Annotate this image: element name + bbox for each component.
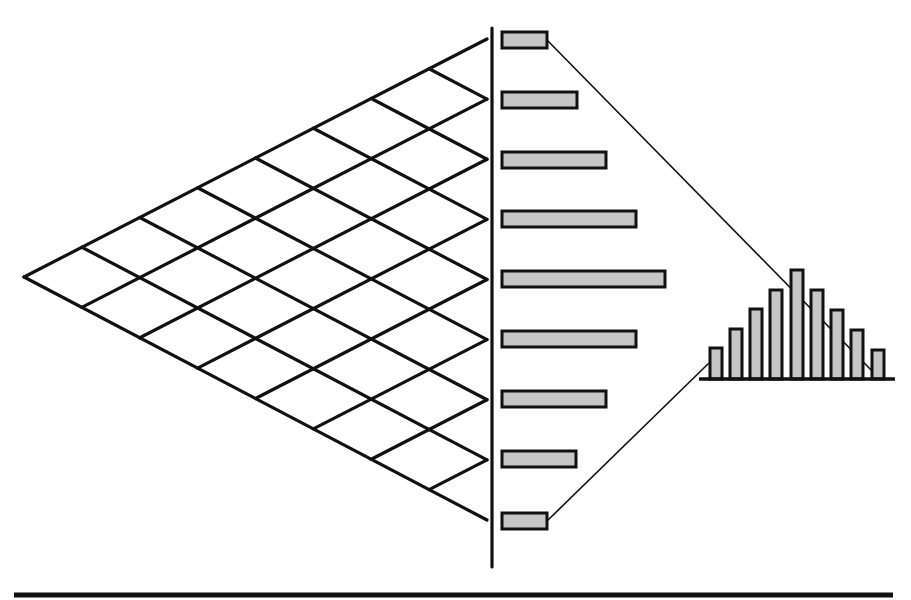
histogram xyxy=(699,270,895,379)
horizontal-bar-7 xyxy=(502,391,606,407)
histogram-bar-9 xyxy=(872,350,884,379)
horizontal-bar-9 xyxy=(502,513,547,529)
horizontal-bar-4 xyxy=(502,211,636,227)
lattice-line xyxy=(82,99,487,307)
lattice-line xyxy=(198,219,487,368)
lattice-line xyxy=(82,247,487,460)
histogram-bar-2 xyxy=(730,329,742,379)
path-lattice xyxy=(24,39,487,520)
histogram-bar-4 xyxy=(770,290,782,379)
galton-diagram xyxy=(0,0,911,600)
horizontal-bars xyxy=(502,32,665,529)
horizontal-bar-2 xyxy=(502,92,577,108)
lattice-line xyxy=(429,460,487,490)
histogram-bar-5 xyxy=(791,270,803,379)
lattice-line xyxy=(429,69,487,99)
horizontal-bar-8 xyxy=(502,451,576,467)
histogram-bar-1 xyxy=(710,348,722,379)
horizontal-bar-6 xyxy=(502,331,636,347)
histogram-bar-7 xyxy=(831,310,843,379)
horizontal-bar-3 xyxy=(502,152,606,168)
connector-line-bottom xyxy=(547,363,709,521)
histogram-bar-6 xyxy=(811,290,823,379)
histogram-bar-8 xyxy=(851,330,863,379)
horizontal-bar-1 xyxy=(502,32,547,48)
lattice-line xyxy=(198,188,487,340)
connector-line-top xyxy=(547,40,878,377)
horizontal-bar-5 xyxy=(502,271,665,287)
histogram-bar-3 xyxy=(750,309,762,379)
